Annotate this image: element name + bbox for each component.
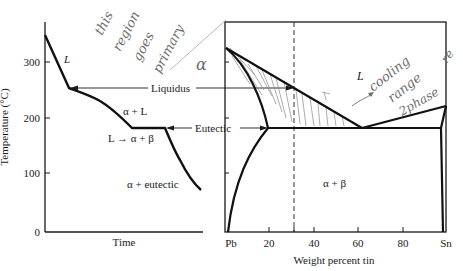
- x-axis-title-weight-percent: Weight percent tin: [294, 254, 375, 266]
- label-alpha-plus-eutectic: α + eutectic: [127, 178, 179, 190]
- region-label-L: L: [356, 69, 364, 83]
- label-L-left: L: [63, 53, 70, 65]
- y-tick-label-300: 300: [24, 56, 41, 68]
- x-tick-label-sn: Sn: [440, 237, 452, 249]
- region-label-alpha-beta: α + β: [323, 177, 346, 189]
- eutectic-callout-label: Eutectic: [195, 122, 231, 134]
- label-alpha-plus-L: α + L: [123, 105, 147, 117]
- liquidus-callout-label: Liquidus: [151, 82, 190, 94]
- eutectic-arrowhead-left: [166, 126, 174, 131]
- phase-diagram-figure: 300 200 100 0 Temperature (°C) Time L α …: [0, 0, 463, 271]
- x-tick-label-60: 60: [353, 237, 365, 249]
- handwriting-this: this: [91, 9, 116, 38]
- solidus-beta: [441, 106, 446, 128]
- y-axis-title: Temperature (°C): [0, 88, 11, 166]
- handwriting-alpha: α: [196, 55, 207, 74]
- y-tick-label-0: 0: [35, 226, 41, 238]
- handwriting-goes: goes: [129, 29, 157, 63]
- x-axis-title-time: Time: [113, 236, 136, 248]
- handwriting-re: re: [438, 47, 457, 66]
- solvus-beta: [441, 128, 443, 232]
- y-tick-label-100: 100: [24, 167, 41, 179]
- y-tick-label-200: 200: [24, 112, 41, 124]
- phase-diagram-chart: Pb 20 40 60 80 Sn Weight percent tin L α…: [225, 22, 452, 266]
- callouts: Liquidus Eutectic: [70, 82, 294, 134]
- solvus-alpha: [228, 128, 268, 232]
- x-tick-label-80: 80: [398, 237, 410, 249]
- x-tick-label-pb: Pb: [225, 237, 237, 249]
- handwriting-primary: primary: [149, 22, 187, 76]
- pencil-arrow-to-region: [352, 94, 372, 106]
- handwritten-note-primary-alpha: this region goes primary α: [91, 9, 226, 76]
- x-tick-label-40: 40: [309, 237, 321, 249]
- x-tick-label-20: 20: [264, 237, 276, 249]
- label-L-to-alpha-beta: L → α + β: [108, 132, 154, 144]
